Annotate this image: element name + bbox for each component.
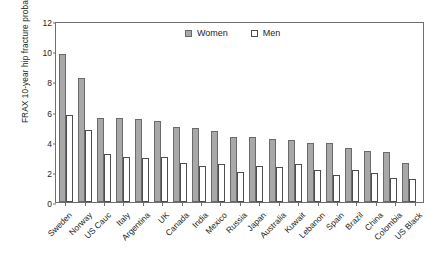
x-axis-tick-mark: [259, 203, 260, 206]
x-axis-labels: SwedenNorwayUS CaucItalyArgentinaUKCanad…: [55, 206, 424, 269]
y-axis-tick-label: 4: [47, 139, 52, 149]
plot-inner: 024681012: [56, 23, 423, 202]
bar-group: [288, 23, 307, 202]
bar-women: [78, 78, 85, 202]
x-axis-tick-mark: [415, 203, 416, 206]
plot-area: 024681012: [55, 22, 424, 203]
bar-men: [218, 164, 225, 202]
bar-group: [135, 23, 154, 202]
bar-men: [142, 158, 149, 202]
y-axis-tick-label: 2: [47, 169, 52, 179]
legend-item-men: Men: [251, 28, 281, 38]
bar-women: [192, 128, 199, 202]
y-axis-tick-label: 8: [47, 78, 52, 88]
bar-group: [383, 23, 402, 202]
x-axis-tick-mark: [182, 203, 183, 206]
bar-women: [249, 137, 256, 202]
bar-group: [307, 23, 326, 202]
y-axis-tick-label: 10: [43, 48, 52, 58]
bar-group: [402, 23, 421, 202]
bar-group: [192, 23, 211, 202]
open-square-icon: [251, 30, 258, 37]
bar-women: [269, 139, 276, 202]
bar-women: [116, 118, 123, 202]
x-axis-tick-mark: [85, 203, 86, 206]
x-axis-tick-mark: [356, 203, 357, 206]
y-axis-tick-label: 12: [43, 18, 52, 28]
x-axis-tick-mark: [395, 203, 396, 206]
bar-series-container: [56, 23, 423, 202]
y-axis-tick-mark: [53, 204, 56, 205]
bar-group: [269, 23, 288, 202]
bar-women: [154, 121, 161, 202]
x-axis-tick-mark: [337, 203, 338, 206]
x-axis-tick-mark: [376, 203, 377, 206]
x-axis-tick-mark: [65, 203, 66, 206]
bar-group: [326, 23, 345, 202]
bar-group: [173, 23, 192, 202]
bar-group: [345, 23, 364, 202]
y-axis-tick-label: 0: [47, 199, 52, 209]
bar-group: [154, 23, 173, 202]
x-axis-tick-mark: [318, 203, 319, 206]
frax-hip-fracture-bar-chart: FRAX 10-year hip fracture probability 02…: [0, 0, 446, 269]
bar-men: [180, 163, 187, 202]
x-axis-tick-mark: [104, 203, 105, 206]
legend-item-women: Women: [185, 28, 228, 38]
x-axis-tick-mark: [298, 203, 299, 206]
legend-label-men: Men: [263, 28, 281, 38]
bar-women: [59, 54, 66, 202]
bar-women: [288, 140, 295, 202]
bar-group: [211, 23, 230, 202]
x-axis-tick-label-text: Sweden: [46, 210, 74, 238]
bar-women: [326, 143, 333, 202]
chart-legend: Women Men: [185, 28, 280, 38]
bar-women: [230, 137, 237, 202]
bar-group: [116, 23, 135, 202]
bar-women: [402, 163, 409, 202]
bar-women: [383, 152, 390, 202]
bar-group: [78, 23, 97, 202]
x-axis-tick-mark: [220, 203, 221, 206]
x-axis-tick-mark: [279, 203, 280, 206]
bar-group: [364, 23, 383, 202]
x-axis-tick-mark: [143, 203, 144, 206]
filled-square-icon: [185, 30, 192, 37]
bar-women: [364, 151, 371, 202]
bar-group: [230, 23, 249, 202]
bar-women: [97, 118, 104, 202]
bar-group: [249, 23, 268, 202]
x-axis-tick-mark: [123, 203, 124, 206]
bar-women: [211, 131, 218, 202]
bar-group: [97, 23, 116, 202]
x-axis-tick-mark: [162, 203, 163, 206]
bar-women: [135, 119, 142, 202]
x-axis-tick-label: UK: [164, 202, 179, 217]
x-axis-tick-mark: [240, 203, 241, 206]
legend-label-women: Women: [197, 28, 228, 38]
x-axis-tick-label-text: UK: [156, 210, 171, 225]
y-axis-tick-label: 6: [47, 109, 52, 119]
bar-group: [59, 23, 78, 202]
x-axis-tick-mark: [201, 203, 202, 206]
bar-men: [66, 115, 73, 202]
y-axis-title: FRAX 10-year hip fracture probability: [20, 0, 30, 148]
